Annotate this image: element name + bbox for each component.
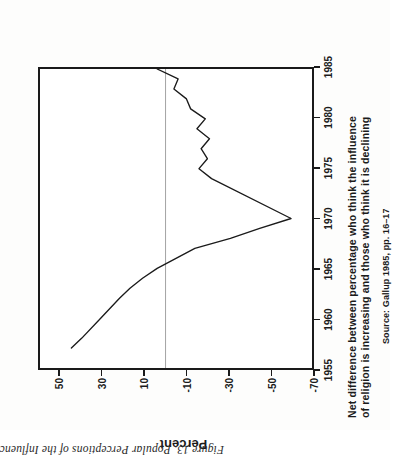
x-tick-label: 1955	[323, 359, 334, 381]
y-tick-mark	[186, 370, 188, 376]
y-tick-mark	[101, 370, 103, 376]
x-tick-label: 1985	[323, 56, 334, 78]
plot-inner	[40, 69, 312, 368]
chart-canvas	[40, 69, 312, 368]
chart-title-line-1: Net difference between percentage who th…	[346, 18, 359, 418]
chart-source-note: Source: Gallup 1985, pp. 16–17	[381, 18, 391, 344]
figure-caption: Figure 13. Popular Perceptions of the In…	[0, 444, 224, 456]
x-tick-mark	[314, 218, 320, 220]
x-tick-label: 1965	[323, 258, 334, 280]
x-tick-mark	[314, 66, 320, 68]
plot-frame	[38, 67, 314, 370]
y-tick-mark	[143, 370, 145, 376]
chart-title-block: Net difference between percentage who th…	[346, 18, 391, 418]
y-tick-mark	[228, 370, 230, 376]
x-tick-label: 1970	[323, 207, 334, 229]
x-tick-label: 1975	[323, 157, 334, 179]
y-tick-label: 50	[54, 378, 65, 418]
x-tick-mark	[314, 369, 320, 371]
y-tick-mark	[271, 370, 273, 376]
y-tick-label: -10	[181, 378, 192, 418]
x-tick-mark	[314, 268, 320, 270]
y-tick-label: -50	[266, 378, 277, 418]
y-tick-label: 10	[139, 378, 150, 418]
y-tick-label: -70	[309, 378, 320, 418]
y-tick-label: -30	[224, 378, 235, 418]
x-tick-mark	[314, 167, 320, 169]
y-tick-mark	[313, 370, 315, 376]
y-tick-mark	[58, 370, 60, 376]
x-tick-mark	[314, 117, 320, 119]
y-tick-label: 30	[96, 378, 107, 418]
x-tick-mark	[314, 319, 320, 321]
x-tick-label: 1960	[323, 308, 334, 330]
data-line-0	[71, 69, 291, 348]
x-tick-label: 1980	[323, 106, 334, 128]
figure-stage: Net difference between percentage who th…	[10, 10, 396, 440]
chart-title-line-2: of religion is increasing and those who …	[359, 18, 372, 418]
